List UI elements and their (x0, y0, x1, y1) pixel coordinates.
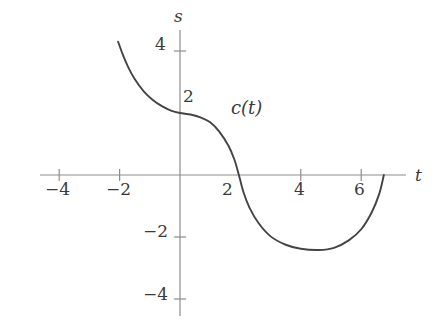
curve-label: c(t) (231, 99, 262, 117)
plot-canvas (0, 0, 437, 332)
x-axis-tick-label: −4 (45, 181, 70, 198)
y-axis-tick-label: 2 (183, 88, 194, 105)
function-graph-figure: s t c(t) −4−224642−2−4 (0, 0, 437, 332)
y-axis-tick-label: −4 (143, 286, 168, 303)
x-axis-tick-label: 4 (294, 181, 305, 198)
x-axis-tick-label: −2 (106, 181, 131, 198)
axes-group (40, 30, 406, 316)
function-curve (118, 42, 384, 250)
y-axis-tick-label: 4 (155, 36, 166, 53)
y-axis-label: s (174, 8, 183, 25)
x-axis-label: t (415, 167, 422, 184)
x-axis-tick-label: 6 (354, 181, 365, 198)
x-axis-tick-label: 2 (222, 181, 233, 198)
y-axis-tick-label: −2 (143, 223, 168, 240)
